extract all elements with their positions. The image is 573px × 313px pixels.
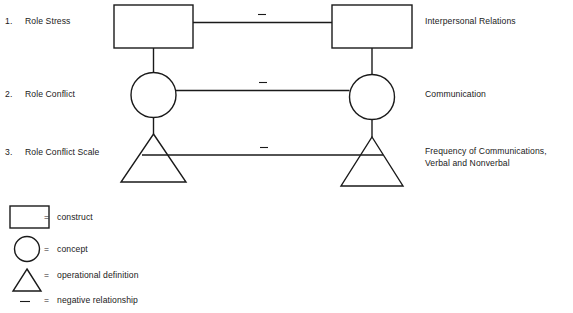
legend-triangle-swatch (13, 269, 41, 291)
legend-equals-concept: = (44, 244, 49, 255)
row-number-1: 1. (5, 16, 12, 27)
right-label-interpersonal-relations: Interpersonal Relations (425, 16, 516, 27)
row-number-3: 3. (5, 147, 12, 158)
legend-equals-operational-definition: = (44, 270, 49, 281)
legend-equals-negative-relationship: = (44, 295, 49, 306)
operational-definition-triangle-right (341, 137, 403, 186)
right-label-frequency-line2: Verbal and Nonverbal (425, 158, 510, 169)
legend-label-operational-definition: operational definition (57, 270, 139, 281)
legend-equals-construct: = (44, 212, 49, 223)
row-number-2: 2. (5, 89, 12, 100)
operational-definition-triangle-left (121, 134, 186, 182)
row-label-role-conflict-scale: Role Conflict Scale (25, 147, 100, 158)
legend-circle-swatch (15, 237, 40, 262)
concept-circle-right (350, 75, 395, 120)
right-label-communication: Communication (425, 89, 486, 100)
construct-box-right (332, 5, 412, 48)
diagram-canvas: 1. Role Stress Interpersonal Relations 2… (0, 0, 573, 313)
row-label-role-conflict: Role Conflict (25, 89, 75, 100)
row-label-role-stress: Role Stress (25, 16, 71, 27)
legend-label-concept: concept (57, 244, 88, 255)
right-label-frequency-line1: Frequency of Communications, (425, 146, 547, 157)
legend-label-construct: construct (57, 212, 93, 223)
legend-label-negative-relationship: negative relationship (57, 295, 138, 306)
construct-box-left (114, 5, 193, 48)
concept-circle-left (131, 73, 176, 118)
